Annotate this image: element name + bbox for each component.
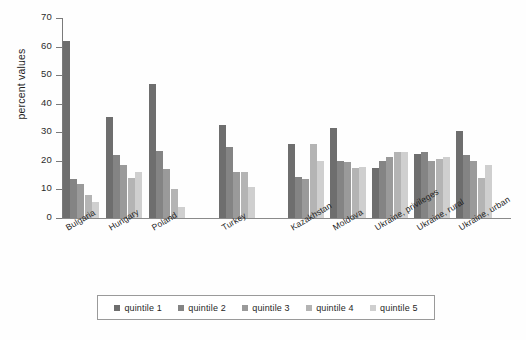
legend-item[interactable]: quintile 1 <box>114 303 162 313</box>
bar <box>113 155 120 218</box>
bar <box>219 125 226 218</box>
y-axis-tick-label: 30 <box>41 125 52 136</box>
legend-item[interactable]: quintile 3 <box>242 303 290 313</box>
bar <box>226 147 233 218</box>
bar <box>106 117 113 218</box>
bar <box>156 151 163 218</box>
y-axis-tick-label: 60 <box>41 40 52 51</box>
bar-group <box>149 18 185 218</box>
bar <box>63 41 70 218</box>
legend-swatch-icon <box>242 305 248 311</box>
y-axis-tick-label: 0 <box>47 211 52 222</box>
bar <box>337 161 344 218</box>
bar <box>344 162 351 218</box>
y-axis-tick-label: 70 <box>41 11 52 22</box>
bar-group <box>288 18 324 218</box>
legend-item[interactable]: quintile 2 <box>178 303 226 313</box>
bar-group <box>372 18 408 218</box>
legend-swatch-icon <box>370 305 376 311</box>
bar-group <box>219 18 255 218</box>
bar-chart-figure: percent values 010203040506070 BulgariaH… <box>0 0 526 340</box>
bar <box>421 152 428 218</box>
y-axis-tick-mark <box>56 218 62 219</box>
bar <box>120 165 127 218</box>
bar-group <box>456 18 492 218</box>
bar <box>470 161 477 218</box>
chart-legend: quintile 1quintile 2quintile 3quintile 4… <box>97 295 435 320</box>
bar-group <box>330 18 366 218</box>
bar <box>149 84 156 218</box>
y-axis-tick-label: 40 <box>41 97 52 108</box>
bar <box>295 177 302 218</box>
legend-label: quintile 2 <box>188 303 226 313</box>
bar <box>163 169 170 218</box>
legend-label: quintile 5 <box>380 303 418 313</box>
bar <box>386 157 393 218</box>
legend-item[interactable]: quintile 5 <box>370 303 418 313</box>
y-axis-title: percent values <box>15 19 27 149</box>
bar-group <box>106 18 142 218</box>
plot-area <box>62 18 507 218</box>
y-axis-tick-label: 50 <box>41 68 52 79</box>
y-axis-tick-label: 20 <box>41 154 52 165</box>
bar <box>178 207 185 218</box>
bar-group <box>63 18 99 218</box>
legend-swatch-icon <box>178 305 184 311</box>
bar <box>372 168 379 218</box>
bar <box>379 161 386 218</box>
legend-swatch-icon <box>306 305 312 311</box>
legend-swatch-icon <box>114 305 120 311</box>
legend-label: quintile 4 <box>316 303 354 313</box>
bar <box>288 144 295 218</box>
bar <box>70 179 77 218</box>
bar <box>463 155 470 218</box>
legend-label: quintile 3 <box>252 303 290 313</box>
legend-label: quintile 1 <box>124 303 162 313</box>
y-axis-tick-label: 10 <box>41 182 52 193</box>
legend-item[interactable]: quintile 4 <box>306 303 354 313</box>
bar <box>248 187 255 218</box>
